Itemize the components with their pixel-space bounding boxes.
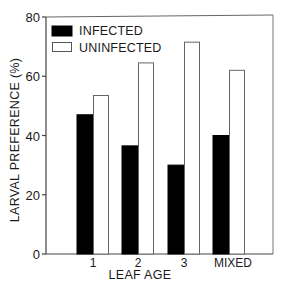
y-tick-label: 0: [33, 247, 40, 262]
bar-uninfected-2: [139, 63, 154, 254]
bar-infected-2: [122, 146, 138, 254]
bars: [77, 42, 245, 254]
legend-label-infected: INFECTED: [79, 24, 143, 38]
legend-swatch-infected: [52, 26, 72, 36]
x-category-label: 1: [90, 256, 97, 270]
legend-swatch-uninfected: [53, 43, 72, 52]
bar-infected-mixed: [213, 136, 229, 255]
bar-chart: 020406080 123MIXED LEAF AGE LARVAL PREFE…: [0, 0, 282, 289]
bar-uninfected-3: [185, 42, 200, 254]
y-axis-title: LARVAL PREFERENCE (%): [8, 58, 22, 222]
y-axis-ticks: 020406080: [26, 10, 46, 262]
x-axis-title: LEAF AGE: [109, 268, 172, 282]
legend-label-uninfected: UNINFECTED: [79, 41, 162, 55]
bar-infected-3: [168, 165, 184, 254]
y-tick-label: 80: [26, 10, 40, 25]
y-tick-label: 20: [26, 188, 40, 203]
x-category-label: 3: [181, 256, 188, 270]
y-tick-label: 40: [26, 129, 40, 144]
bar-uninfected-1: [94, 96, 109, 254]
bar-infected-1: [77, 115, 93, 254]
legend: INFECTED UNINFECTED: [52, 24, 162, 55]
y-tick-label: 60: [26, 69, 40, 84]
top-frame-line: [46, 15, 273, 17]
x-category-label: MIXED: [214, 256, 252, 270]
bar-uninfected-mixed: [230, 70, 245, 254]
